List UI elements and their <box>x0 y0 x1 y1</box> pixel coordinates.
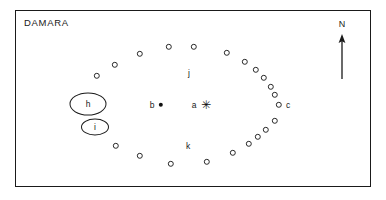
marker-a-asterisk-icon: ✳ <box>201 99 211 111</box>
plan-frame <box>15 10 371 187</box>
north-arrow-group: N <box>331 20 353 80</box>
page-title: DAMARA <box>24 17 69 28</box>
area-label-j: j <box>188 69 190 78</box>
enclosure-h-label: h <box>86 100 91 109</box>
enclosure-h: h <box>70 93 107 116</box>
figure-canvas: DAMARA h i b <box>0 0 386 200</box>
enclosure-i: i <box>81 119 109 136</box>
north-label: N <box>339 20 346 29</box>
north-arrow-icon <box>336 33 348 81</box>
marker-b-label: b <box>150 101 155 110</box>
area-label-c: c <box>286 101 290 110</box>
marker-a-label: a <box>192 101 197 110</box>
area-label-k: k <box>186 142 190 151</box>
enclosure-i-label: i <box>94 123 96 132</box>
